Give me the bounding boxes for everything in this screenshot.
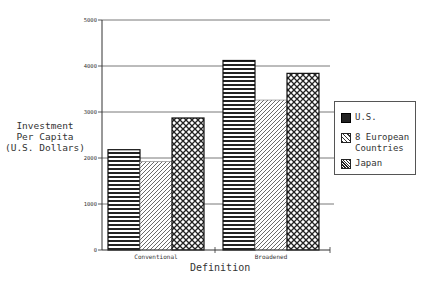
legend-label: 8 European Countries [355,132,409,154]
crosshatch-swatch-icon [341,159,351,169]
horizontal-lines-swatch-icon [341,113,351,123]
y-tick-label: 2000 [84,155,97,161]
y-tick-label: 5000 [84,17,97,23]
bar [108,150,140,250]
bars [108,60,319,250]
bar [172,118,204,250]
legend-label: U.S. [355,112,377,123]
bar [255,100,287,250]
legend-item-japan: Japan [341,158,382,169]
legend-label-line: 8 European [355,132,409,143]
y-axis-label: Investment Per Capita (U.S. Dollars) [2,120,88,153]
diagonal-lines-swatch-icon [341,133,351,143]
legend-item-europe: 8 European Countries [341,132,409,154]
x-axis-label: Definition [190,262,250,273]
y-axis-label-line: (U.S. Dollars) [2,142,88,153]
y-axis-label-line: Per Capita [2,131,88,142]
y-axis-label-line: Investment [2,120,88,131]
bar [287,73,319,250]
bar [140,162,172,250]
bar [223,60,255,250]
y-tick-label: 1000 [84,201,97,207]
x-tick-label: Broadened [255,253,288,260]
legend-label: Japan [355,158,382,169]
x-tick-label: Conventional [134,253,178,260]
legend-item-us: U.S. [341,112,377,123]
y-tick-label: 4000 [84,63,97,69]
legend: U.S. 8 European Countries Japan [334,101,416,175]
y-tick-label: 3000 [84,109,97,115]
legend-label-line: Countries [355,143,409,154]
y-tick-label: 0 [94,247,97,253]
